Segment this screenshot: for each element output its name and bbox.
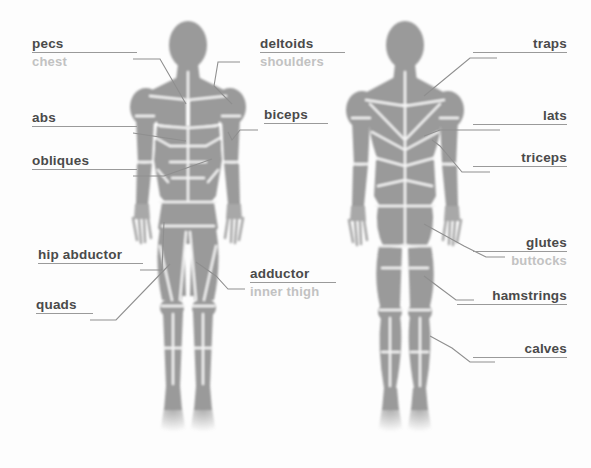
label-adductor[interactable]: adductor inner thigh	[250, 266, 336, 299]
label-lats[interactable]: lats	[473, 108, 567, 126]
label-traps-rule	[473, 52, 567, 53]
label-abs-rule	[32, 126, 137, 127]
label-traps[interactable]: traps	[473, 36, 567, 54]
front-hand-left	[133, 204, 151, 243]
back-separators	[352, 72, 458, 386]
label-hip-abductor-rule	[38, 263, 143, 264]
label-hip-abductor[interactable]: hip abductor	[38, 247, 143, 265]
front-biceps-right	[222, 118, 240, 164]
back-forearm-right	[442, 165, 458, 206]
label-biceps-rule	[264, 123, 328, 124]
front-foot-right	[194, 386, 212, 410]
front-foot-left-fade	[160, 408, 186, 432]
label-pecs[interactable]: pecs chest	[32, 36, 137, 69]
label-calves[interactable]: calves	[473, 341, 567, 359]
front-biceps-left	[136, 118, 154, 164]
label-calves-rule	[473, 357, 567, 358]
front-pec-right	[190, 96, 223, 128]
label-abs-primary: abs	[32, 110, 137, 125]
front-foot-right-fade	[190, 408, 216, 432]
label-obliques[interactable]: obliques	[32, 153, 137, 171]
label-pecs-secondary: chest	[32, 54, 137, 69]
back-hand-left	[349, 206, 367, 245]
back-foot-left-fade	[378, 408, 403, 432]
front-forearm-left	[136, 163, 152, 204]
muscle-anatomy-diagram: pecs chest abs obliques hip abductor qua…	[0, 0, 591, 468]
label-obliques-rule	[32, 169, 137, 170]
label-biceps-primary: biceps	[264, 107, 328, 122]
back-glute-left	[377, 206, 404, 248]
front-foot-left	[164, 386, 182, 410]
label-hamstrings[interactable]: hamstrings	[457, 288, 567, 306]
label-obliques-primary: obliques	[32, 153, 137, 168]
figure-back	[346, 21, 464, 432]
label-deltoids-rule	[260, 52, 345, 53]
label-lats-primary: lats	[473, 108, 567, 123]
back-triceps-left	[352, 120, 370, 166]
label-glutes[interactable]: glutes buttocks	[473, 235, 567, 268]
label-glutes-primary: glutes	[473, 235, 567, 250]
back-hamstring-right	[408, 246, 434, 306]
label-lats-rule	[473, 124, 567, 125]
label-triceps-primary: triceps	[473, 150, 567, 165]
label-glutes-rule	[473, 251, 567, 252]
label-abs[interactable]: abs	[32, 110, 137, 128]
front-head	[169, 21, 207, 69]
label-quads-primary: quads	[36, 297, 93, 312]
figure-front	[130, 21, 246, 432]
front-pec-left	[153, 96, 186, 128]
back-head	[386, 21, 424, 69]
label-quads[interactable]: quads	[36, 297, 93, 315]
back-foot-left	[382, 388, 399, 410]
front-forearm-right	[224, 163, 240, 204]
label-calves-primary: calves	[473, 341, 567, 356]
anatomy-illustration	[0, 0, 591, 468]
label-deltoids-primary: deltoids	[260, 36, 345, 51]
back-triceps-right	[440, 120, 458, 166]
label-traps-primary: traps	[473, 36, 567, 51]
label-hip-abductor-primary: hip abductor	[38, 247, 143, 262]
back-foot-right-fade	[407, 408, 432, 432]
label-pecs-primary: pecs	[32, 36, 137, 51]
label-glutes-secondary: buttocks	[473, 253, 567, 268]
label-hamstrings-rule	[457, 304, 567, 305]
label-biceps[interactable]: biceps	[264, 107, 328, 125]
label-deltoids-secondary: shoulders	[260, 54, 345, 69]
label-quads-rule	[36, 313, 93, 314]
label-deltoids[interactable]: deltoids shoulders	[260, 36, 345, 69]
front-hand-right	[225, 204, 243, 243]
label-adductor-primary: adductor	[250, 266, 336, 281]
label-triceps-rule	[473, 166, 567, 167]
back-forearm-left	[352, 165, 368, 206]
label-pecs-rule	[32, 52, 137, 53]
back-hamstring-left	[376, 246, 402, 306]
label-adductor-rule	[250, 282, 336, 283]
back-foot-right	[411, 388, 428, 410]
label-adductor-secondary: inner thigh	[250, 284, 336, 299]
label-hamstrings-primary: hamstrings	[457, 288, 567, 303]
label-triceps[interactable]: triceps	[473, 150, 567, 168]
